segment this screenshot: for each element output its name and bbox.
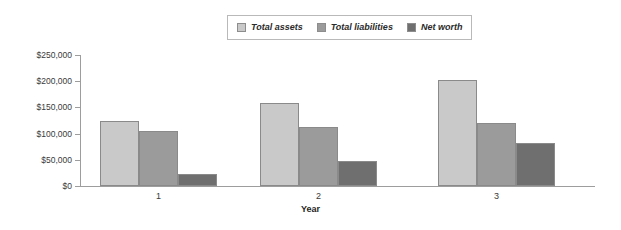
bar <box>516 143 555 186</box>
x-category-label: 2 <box>316 191 321 201</box>
legend-entry[interactable]: Total liabilities <box>317 23 393 32</box>
bar <box>438 80 477 186</box>
y-tick-mark <box>75 81 80 82</box>
x-axis-title: Year <box>0 204 621 214</box>
legend-swatch-icon <box>317 23 326 32</box>
x-axis-line <box>80 186 595 187</box>
legend-label: Net worth <box>421 23 463 32</box>
bar <box>139 131 178 186</box>
y-tick-label: $150,000 <box>37 102 72 112</box>
y-tick-label: $100,000 <box>37 129 72 139</box>
legend-entry[interactable]: Net worth <box>407 23 463 32</box>
legend-entry[interactable]: Total assets <box>237 23 303 32</box>
bar <box>260 103 299 186</box>
bar <box>338 161 377 186</box>
chart-legend: Total assetsTotal liabilitiesNet worth <box>227 15 472 40</box>
x-category-label: 1 <box>156 191 161 201</box>
bar <box>100 121 139 187</box>
bar <box>178 174 217 186</box>
y-tick-mark <box>75 134 80 135</box>
legend-swatch-icon <box>407 23 416 32</box>
y-tick-label: $0 <box>63 181 72 191</box>
legend-swatch-icon <box>237 23 246 32</box>
bar-chart: Total assetsTotal liabilitiesNet worth $… <box>0 0 621 230</box>
y-tick-mark <box>75 55 80 56</box>
bar <box>299 127 338 186</box>
bar <box>477 123 516 186</box>
y-tick-mark <box>75 186 80 187</box>
x-category-label: 3 <box>494 191 499 201</box>
y-axis-line <box>80 55 81 186</box>
y-tick-mark <box>75 107 80 108</box>
y-tick-label: $200,000 <box>37 76 72 86</box>
y-tick-label: $250,000 <box>37 50 72 60</box>
legend-label: Total assets <box>251 23 303 32</box>
legend-label: Total liabilities <box>331 23 393 32</box>
plot-area: $0$50,000$100,000$150,000$200,000$250,00… <box>80 55 595 186</box>
y-tick-mark <box>75 160 80 161</box>
y-tick-label: $50,000 <box>41 155 72 165</box>
